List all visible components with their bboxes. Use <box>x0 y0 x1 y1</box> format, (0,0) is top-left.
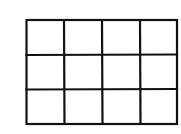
grid-row-line-2 <box>27 89 178 90</box>
grid-diagram <box>0 0 181 134</box>
grid-column-line-2 <box>102 20 103 124</box>
grid-column-line-1 <box>64 20 65 124</box>
grid-row-line-1 <box>27 55 178 56</box>
grid-column-line-3 <box>140 20 141 124</box>
